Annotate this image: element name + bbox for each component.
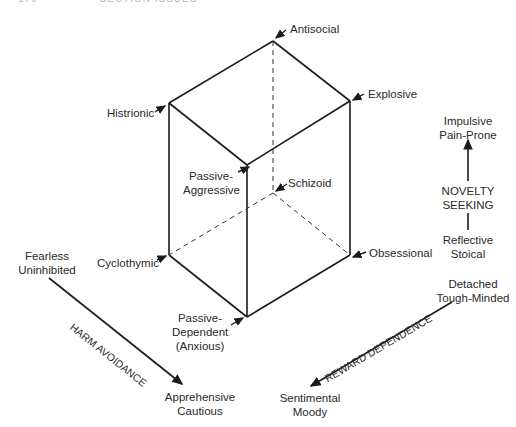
reward-low-label: Detached Tough-Minded xyxy=(430,277,516,305)
label-cyclothymic: Cyclothymic xyxy=(97,256,159,270)
label-passive-dependent: Passive- Dependent (Anxious) xyxy=(172,311,228,353)
label-obsessional: Obsessional xyxy=(369,246,432,260)
novelty-low-label: Reflective Stoical xyxy=(430,233,506,261)
label-antisocial: Antisocial xyxy=(290,22,339,36)
label-passive-aggressive: Passive- Aggressive xyxy=(183,169,239,197)
label-histrionic: Histrionic xyxy=(107,106,154,120)
reward-high-label: Sentimental Moody xyxy=(272,391,348,419)
novelty-seeking-axis-label: NOVELTY SEEKING xyxy=(430,184,506,212)
novelty-high-label: Impulsive Pain-Prone xyxy=(430,114,506,142)
harm-low-label: Fearless Uninhibited xyxy=(12,249,82,277)
label-explosive: Explosive xyxy=(368,87,417,101)
harm-high-label: Apprehensive Cautious xyxy=(160,390,240,418)
label-schizoid: Schizoid xyxy=(288,176,331,190)
cube-hidden-edges xyxy=(169,41,350,255)
cube-diagram xyxy=(0,0,516,427)
